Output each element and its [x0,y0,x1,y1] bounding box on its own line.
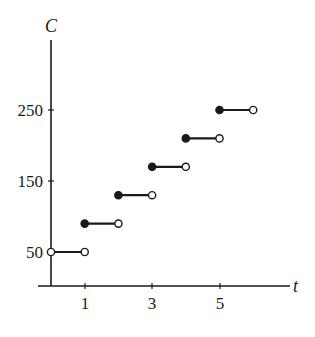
closed-endpoint-dot [81,220,88,227]
open-endpoint-circle [47,248,54,255]
closed-endpoint-dot [182,135,189,142]
x-axis-label: t [293,276,299,296]
closed-endpoint-dot [216,106,223,113]
open-endpoint-circle [216,135,223,142]
closed-endpoint-dot [115,192,122,199]
closed-endpoint-dot [149,163,156,170]
open-endpoint-circle [81,248,88,255]
y-tick-label-50: 50 [26,243,43,262]
x-tick-label-5: 5 [216,294,225,313]
step-segment [115,192,156,199]
x-tick-label-1: 1 [81,294,90,313]
open-endpoint-circle [115,220,122,227]
step-segment [81,220,122,227]
step-chart: C t 250 150 50 1 3 5 [0,0,315,337]
y-tick-label-150: 150 [18,172,44,191]
step-segments [47,106,256,255]
y-tick-label-250: 250 [18,101,44,120]
open-endpoint-circle [250,106,257,113]
step-segment [216,106,257,113]
step-segment [47,248,88,255]
step-segment [149,163,190,170]
y-axis-label: C [45,16,58,36]
open-endpoint-circle [182,163,189,170]
open-endpoint-circle [149,192,156,199]
step-segment [182,135,223,142]
x-tick-label-3: 3 [148,294,157,313]
